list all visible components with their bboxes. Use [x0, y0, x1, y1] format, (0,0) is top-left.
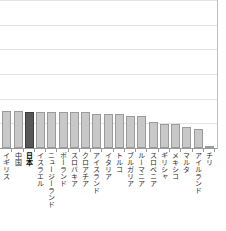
- bar: [36, 112, 45, 148]
- category-label: ニュージーランド: [47, 152, 55, 208]
- category-label: トルコ: [115, 152, 123, 173]
- bars-container: [0, 0, 218, 149]
- category-label: 中国: [14, 152, 22, 166]
- bar: [137, 116, 146, 148]
- bar: [14, 111, 23, 148]
- bar: [194, 129, 203, 148]
- category-label: マルタ: [182, 152, 190, 173]
- bar: [171, 124, 180, 148]
- category-label: ギリシャ: [160, 152, 168, 180]
- bar: [182, 127, 191, 148]
- x-axis-category-labels: イギリス中国日本イスラエルニュージーランドポーランドスロバキアクロアチアアイスラ…: [0, 152, 226, 231]
- category-label: クロアチア: [81, 152, 89, 187]
- category-label: ブルガリア: [126, 152, 134, 187]
- bar: [2, 111, 11, 148]
- category-label: メキシコ: [171, 152, 179, 180]
- category-label: 日本: [25, 152, 33, 166]
- bar: [47, 112, 56, 148]
- bar: [104, 114, 113, 148]
- category-label: チリ: [205, 152, 213, 166]
- category-label: イスラエル: [36, 152, 44, 187]
- category-label: アイルランド: [194, 152, 202, 194]
- category-label: ポーランド: [59, 152, 67, 187]
- bar: [70, 112, 79, 148]
- bar: [81, 112, 90, 148]
- bar: [59, 112, 68, 148]
- bar-chart: イギリス中国日本イスラエルニュージーランドポーランドスロバキアクロアチアアイスラ…: [0, 0, 226, 231]
- bar: [92, 114, 101, 148]
- bar: [149, 122, 158, 148]
- category-label: アイスランド: [92, 152, 100, 194]
- bar-highlighted: [25, 112, 34, 148]
- bar: [115, 114, 124, 148]
- category-label: ルーマニア: [137, 152, 145, 187]
- plot-area: [0, 0, 218, 149]
- category-label: スロバキア: [70, 152, 78, 187]
- category-label: イギリス: [2, 152, 10, 180]
- bar: [160, 124, 169, 148]
- plot-right-border: [217, 0, 218, 149]
- x-axis-line: [0, 148, 218, 149]
- category-label: イタリア: [104, 152, 112, 180]
- bar: [126, 116, 135, 148]
- category-label: スロベニア: [149, 152, 157, 187]
